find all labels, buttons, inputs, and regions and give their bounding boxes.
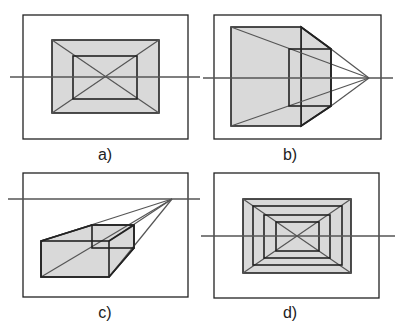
perspective-diagram: a) b) c) <box>0 0 402 328</box>
panel-b-ray-3 <box>331 49 369 78</box>
panel-b: b) <box>203 15 393 163</box>
panel-b-front-face <box>231 27 301 126</box>
panel-d-label: d) <box>283 304 297 321</box>
panel-a-label: a) <box>98 146 112 163</box>
panel-d: d) <box>201 173 395 321</box>
panel-b-side-face <box>301 27 331 126</box>
panel-b-label: b) <box>283 146 297 163</box>
panel-c: c) <box>8 173 200 321</box>
panel-b-ray-4 <box>331 78 369 106</box>
panel-a: a) <box>10 15 200 163</box>
panel-c-label: c) <box>98 304 111 321</box>
